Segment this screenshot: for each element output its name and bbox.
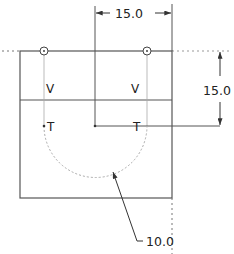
arc-semicircle[interactable] — [44, 126, 147, 178]
label-v-left: V — [46, 82, 55, 96]
profile-rectangle[interactable] — [20, 51, 172, 198]
label-v-right: V — [131, 82, 140, 96]
sketch-canvas: V V T T 15.0 15.0 10.0 — [0, 0, 234, 254]
dimension-radius-value[interactable]: 10.0 — [146, 234, 174, 249]
label-t-left: T — [46, 120, 55, 134]
constraint-circle-left-dot — [43, 50, 45, 52]
point-left-t[interactable] — [43, 125, 46, 128]
point-center[interactable] — [94, 125, 97, 128]
constraint-circle-right-dot — [146, 50, 148, 52]
dimension-top-value[interactable]: 15.0 — [115, 6, 143, 21]
dimension-right-value[interactable]: 15.0 — [203, 83, 231, 98]
label-t-right: T — [132, 120, 141, 134]
dim-radius-leader — [113, 172, 143, 241]
